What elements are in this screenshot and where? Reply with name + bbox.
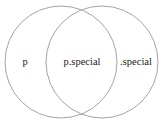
right-region-label: .special [108,56,164,68]
left-region-label: p [0,56,50,68]
venn-diagram: p p.special .special [0,0,164,123]
intersection-region-label: p.special [57,56,107,68]
